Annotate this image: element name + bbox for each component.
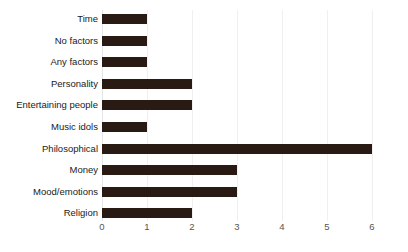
bar xyxy=(102,57,147,67)
bar xyxy=(102,79,192,89)
category-label: No factors xyxy=(0,36,98,46)
bar-row: No factors xyxy=(0,36,408,58)
category-label: Philosophical xyxy=(0,144,98,154)
bar-row: Music idols xyxy=(0,122,408,144)
bars-layer: TimeNo factorsAny factorsPersonalityEnte… xyxy=(0,0,408,252)
category-label: Religion xyxy=(0,208,98,218)
x-tick-label: 5 xyxy=(315,221,339,233)
bar xyxy=(102,187,237,197)
x-tick-label: 2 xyxy=(180,221,204,233)
bar-row: Mood/emotions xyxy=(0,187,408,209)
x-tick-label: 3 xyxy=(225,221,249,233)
x-tick-label: 1 xyxy=(135,221,159,233)
bar-row: Personality xyxy=(0,79,408,101)
x-tick-label: 6 xyxy=(360,221,384,233)
bar xyxy=(102,208,192,218)
category-label: Music idols xyxy=(0,122,98,132)
category-label: Personality xyxy=(0,79,98,89)
x-tick-label: 0 xyxy=(90,221,114,233)
bar-row: Any factors xyxy=(0,57,408,79)
bar xyxy=(102,144,372,154)
category-label: Any factors xyxy=(0,57,98,67)
bar-row: Money xyxy=(0,165,408,187)
bar xyxy=(102,36,147,46)
bar xyxy=(102,100,192,110)
x-axis: 0123456 xyxy=(0,221,408,241)
bar-chart: TimeNo factorsAny factorsPersonalityEnte… xyxy=(0,0,408,252)
category-label: Time xyxy=(0,14,98,24)
category-label: Mood/emotions xyxy=(0,187,98,197)
bar xyxy=(102,122,147,132)
bar-row: Time xyxy=(0,14,408,36)
bar xyxy=(102,165,237,175)
bar xyxy=(102,14,147,24)
category-label: Money xyxy=(0,165,98,175)
bar-row: Philosophical xyxy=(0,144,408,166)
category-label: Entertaining people xyxy=(0,100,98,110)
x-tick-label: 4 xyxy=(270,221,294,233)
bar-row: Entertaining people xyxy=(0,100,408,122)
